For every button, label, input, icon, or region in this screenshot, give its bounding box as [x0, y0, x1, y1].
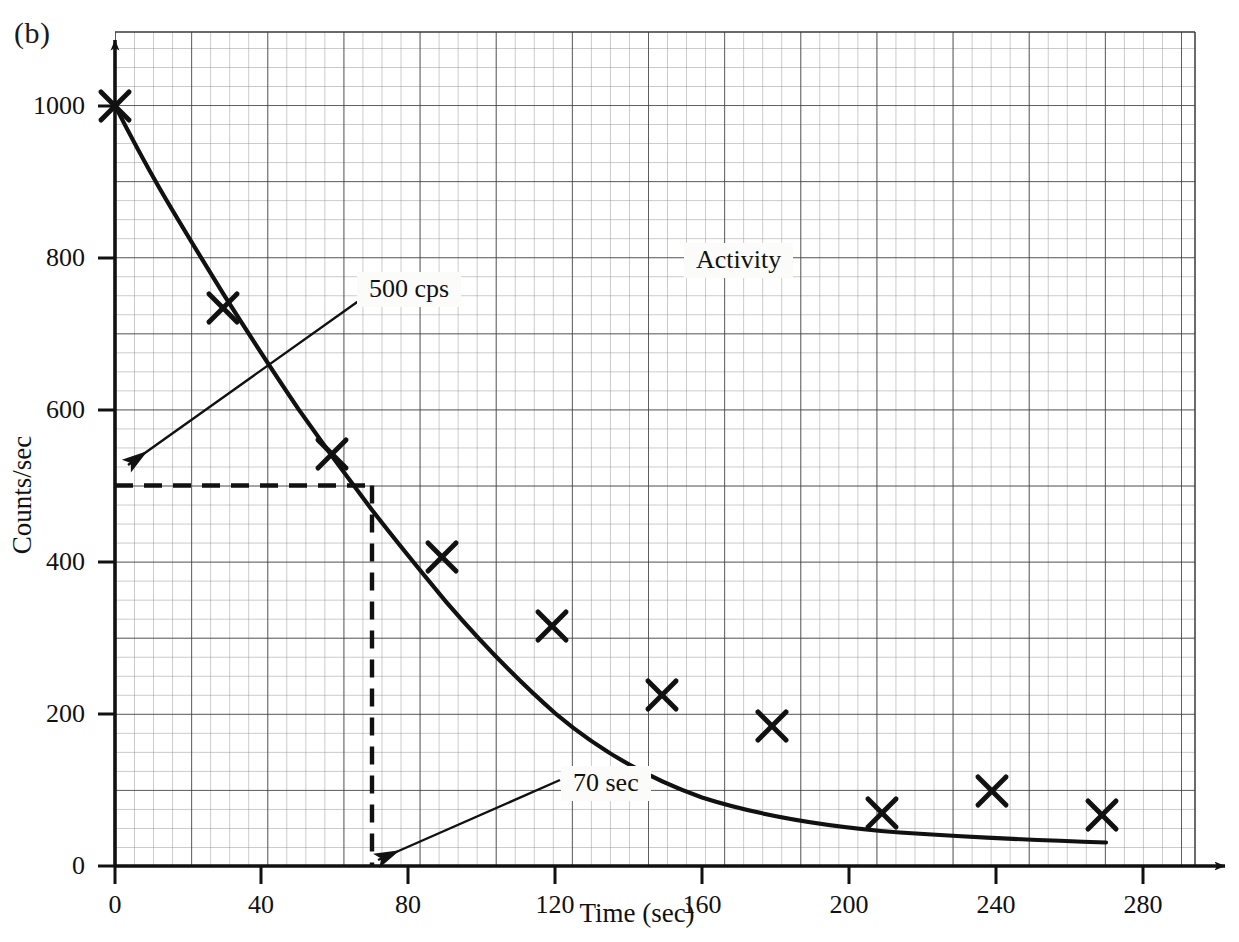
- x-tick-label-80: 80: [395, 890, 421, 920]
- x-tick-label-280: 280: [1124, 890, 1163, 920]
- panel-label: (b): [14, 16, 50, 50]
- x-tick-label-40: 40: [248, 890, 274, 920]
- 500cps-callout-label: 500 cps: [357, 272, 461, 307]
- 70sec-callout-label: 70 sec: [561, 766, 651, 801]
- x-tick-label-120: 120: [536, 890, 575, 920]
- y-tick-label-0: 0: [33, 851, 85, 881]
- activity-decay-figure: (b): [0, 0, 1239, 942]
- x-tick-label-0: 0: [109, 890, 122, 920]
- x-axis-title: Time (sec): [579, 898, 694, 929]
- x-tick-label-200: 200: [830, 890, 869, 920]
- activity-callout-label: Activity: [684, 243, 793, 278]
- x-tick-marks: [115, 866, 1143, 884]
- y-tick-label-200: 200: [14, 699, 85, 729]
- grid-major: [115, 32, 1195, 866]
- y-axis-title: Counts/sec: [7, 436, 38, 555]
- y-tick-label-600: 600: [14, 395, 85, 425]
- y-tick-label-800: 800: [14, 243, 85, 273]
- x-tick-label-240: 240: [977, 890, 1016, 920]
- y-tick-label-1000: 1000: [0, 91, 85, 121]
- y-tick-marks: [98, 106, 115, 866]
